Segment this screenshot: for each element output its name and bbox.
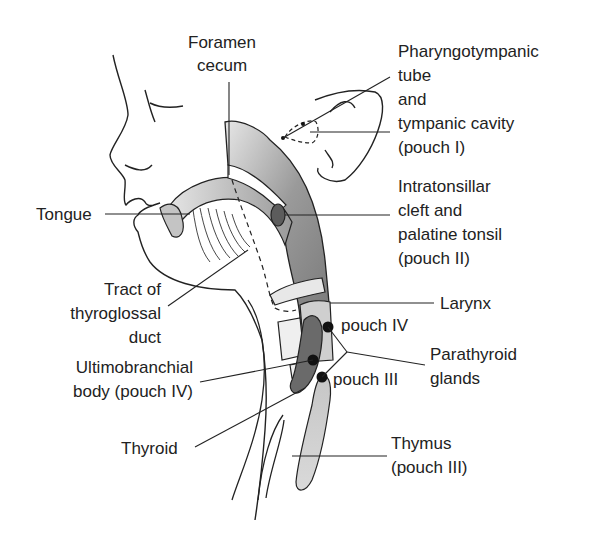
label-thymus: Thymus (pouch III) [391,432,468,480]
label-pouch-iv: pouch IV [341,314,408,337]
label-intratonsillar-cleft: Intratonsillar cleft and palatine tonsil… [398,175,502,271]
tongue-muscle-fibers [193,208,250,262]
thymus-gland [296,376,331,490]
label-parathyroid-glands: Parathyroid glands [430,343,517,391]
label-ultimobranchial-body: Ultimobranchial body (pouch IV) [73,356,193,404]
ear [315,90,383,181]
label-pouch-iii: pouch III [333,368,398,391]
label-tongue: Tongue [36,203,92,226]
palatine-tonsil [271,204,285,226]
label-thyroid: Thyroid [121,437,178,460]
label-pharyngotympanic-tube: Pharyngotympanic tube and tympanic cavit… [398,40,539,160]
label-foramen-cecum: Foramen cecum [188,31,256,77]
label-tract-of-thyroglossal-duct: Tract of thyroglossal duct [70,278,161,350]
label-larynx: Larynx [440,292,491,315]
